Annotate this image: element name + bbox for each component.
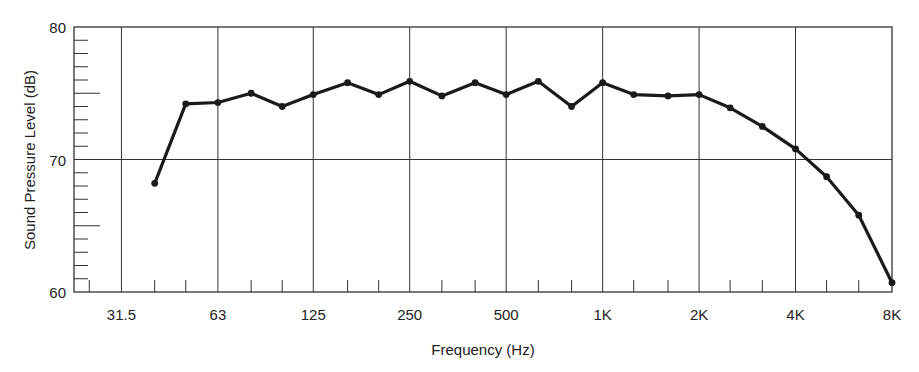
data-point	[279, 103, 286, 110]
data-point	[889, 279, 896, 286]
data-point	[665, 93, 672, 100]
data-point	[248, 90, 255, 97]
x-tick-label: 1K	[593, 306, 611, 323]
y-tick-label: 70	[49, 152, 66, 169]
data-point	[727, 104, 734, 111]
data-point	[215, 99, 222, 106]
data-point	[630, 91, 637, 98]
data-point	[375, 91, 382, 98]
axis-ticks	[74, 40, 859, 292]
data-point	[855, 212, 862, 219]
data-point	[472, 79, 479, 86]
data-points	[151, 78, 895, 286]
data-point	[599, 79, 606, 86]
x-axis-title: Frequency (Hz)	[431, 341, 534, 358]
data-point	[792, 146, 799, 153]
data-point	[503, 91, 510, 98]
y-tick-label: 60	[49, 284, 66, 301]
data-point	[310, 91, 317, 98]
x-tick-label: 4K	[786, 306, 804, 323]
data-point	[151, 180, 158, 187]
grid-lines	[74, 27, 892, 292]
x-tick-label: 63	[210, 306, 227, 323]
data-point	[344, 79, 351, 86]
data-point	[759, 123, 766, 130]
spl-series-line	[155, 81, 892, 282]
data-point	[182, 100, 189, 107]
y-tick-labels: 607080	[49, 19, 66, 301]
data-point	[696, 91, 703, 98]
data-point	[568, 103, 575, 110]
x-tick-labels: 31.5631252505001K2K4K8K	[107, 306, 901, 323]
data-point	[438, 93, 445, 100]
x-tick-label: 8K	[883, 306, 901, 323]
x-tick-label: 2K	[690, 306, 708, 323]
data-point	[406, 78, 413, 85]
spl-frequency-chart: 31.5631252505001K2K4K8K 607080 Frequency…	[0, 0, 919, 372]
data-point	[535, 78, 542, 85]
x-tick-label: 31.5	[107, 306, 136, 323]
x-tick-label: 125	[301, 306, 326, 323]
data-point	[823, 173, 830, 180]
x-tick-label: 500	[494, 306, 519, 323]
x-tick-label: 250	[397, 306, 422, 323]
y-tick-label: 80	[49, 19, 66, 36]
y-axis-title: Sound Pressure Level (dB)	[21, 70, 38, 250]
